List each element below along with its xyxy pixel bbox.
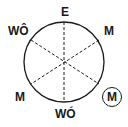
label-top-right: M bbox=[104, 25, 114, 37]
label-bottom-left: M bbox=[15, 91, 25, 103]
label-bottom-right-circled: M bbox=[102, 87, 122, 107]
label-bottom: WÓ bbox=[55, 108, 76, 120]
label-top-left: WÔ bbox=[8, 25, 29, 37]
label-top: E bbox=[61, 6, 69, 18]
